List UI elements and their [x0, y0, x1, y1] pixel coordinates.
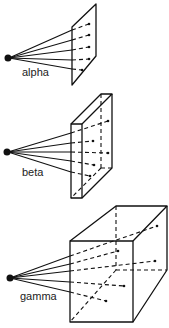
panel-beta: beta	[4, 94, 113, 198]
alpha-source-icon	[5, 55, 12, 62]
panel-alpha: alpha	[5, 4, 97, 85]
gamma-label: gamma	[20, 290, 58, 302]
alpha-label: alpha	[22, 66, 50, 78]
alpha-plane	[72, 4, 96, 85]
panel-gamma: gamma	[7, 206, 168, 322]
beta-slab	[71, 94, 112, 198]
ray-penetration-diagram: alpha	[0, 0, 169, 328]
beta-label: beta	[22, 166, 44, 178]
gamma-block	[70, 206, 167, 322]
gamma-source-icon	[7, 275, 14, 282]
alpha-rays	[9, 23, 90, 72]
beta-source-icon	[4, 149, 11, 156]
